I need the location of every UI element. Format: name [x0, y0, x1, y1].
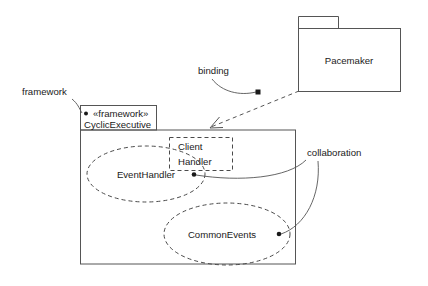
package-pacemaker-tab — [299, 17, 339, 29]
class-client-handler-label-line1: Client — [178, 141, 203, 152]
uml-package-diagram: Pacemaker «framework» CyclicExecutive fr… — [0, 0, 428, 286]
class-client-handler-label-line2: Handler — [178, 156, 212, 167]
collaboration-note-leader-common-events — [281, 161, 318, 234]
framework-anchor-dot — [84, 112, 88, 116]
collaboration-event-handler-label: EventHandler — [117, 169, 176, 180]
package-cyclic-executive[interactable]: «framework» CyclicExecutive — [81, 106, 296, 265]
collaboration-common-events[interactable]: CommonEvents — [164, 203, 290, 265]
package-cyclic-executive-label: CyclicExecutive — [84, 119, 151, 130]
binding-dependency-line — [211, 91, 299, 127]
annotation-collaboration: collaboration — [196, 147, 361, 234]
binding-note-label: binding — [198, 65, 229, 76]
framework-note-label: framework — [22, 86, 67, 97]
collaboration-event-handler[interactable]: EventHandler — [87, 146, 205, 202]
package-cyclic-executive-stereotype: «framework» — [93, 108, 148, 119]
binding-note-leader — [212, 79, 256, 93]
class-client-handler[interactable]: Client Handler — [170, 138, 233, 171]
collaboration-common-events-label: CommonEvents — [188, 229, 256, 240]
binding-note-dot — [256, 90, 261, 95]
collaboration-event-handler-dot — [192, 172, 197, 177]
diagram-canvas: Pacemaker «framework» CyclicExecutive fr… — [0, 0, 428, 286]
package-pacemaker-label: Pacemaker — [325, 55, 374, 66]
annotation-framework: framework — [22, 86, 82, 113]
connector-binding-dependency — [210, 91, 299, 128]
collaboration-note-label: collaboration — [307, 147, 361, 158]
collaboration-note-leader-event-handler — [196, 160, 306, 178]
package-pacemaker[interactable]: Pacemaker — [299, 17, 401, 92]
collaboration-common-events-dot — [277, 232, 282, 237]
annotation-binding: binding — [198, 65, 261, 95]
